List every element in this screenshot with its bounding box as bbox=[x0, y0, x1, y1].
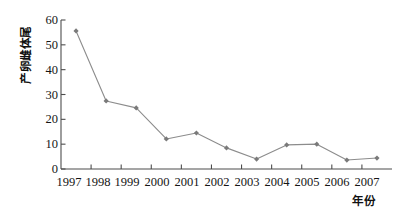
data-point-2004 bbox=[284, 142, 289, 147]
data-point-1997 bbox=[73, 28, 78, 33]
y-axis-ticks bbox=[61, 20, 66, 169]
data-point-2001 bbox=[194, 130, 199, 135]
data-point-2006 bbox=[344, 157, 349, 162]
data-line bbox=[76, 31, 377, 160]
data-point-2007 bbox=[374, 155, 379, 160]
line-chart: 产卵雌体尾 年份 0 10 20 30 40 50 60 1997 1998 1… bbox=[0, 0, 405, 219]
data-point-1998 bbox=[104, 98, 109, 103]
data-point-2003 bbox=[254, 156, 259, 161]
data-point-2002 bbox=[224, 145, 229, 150]
data-markers bbox=[73, 28, 379, 162]
x-axis-ticks bbox=[91, 165, 362, 170]
data-point-2005 bbox=[314, 142, 319, 147]
